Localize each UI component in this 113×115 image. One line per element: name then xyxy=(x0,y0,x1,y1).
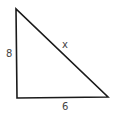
horizontal-side-label: 6 xyxy=(62,101,68,112)
triangle-diagram: 8 x 6 xyxy=(0,0,113,115)
hypotenuse-label: x xyxy=(62,39,68,50)
vertical-side-label: 8 xyxy=(6,48,12,59)
right-triangle xyxy=(16,9,108,98)
